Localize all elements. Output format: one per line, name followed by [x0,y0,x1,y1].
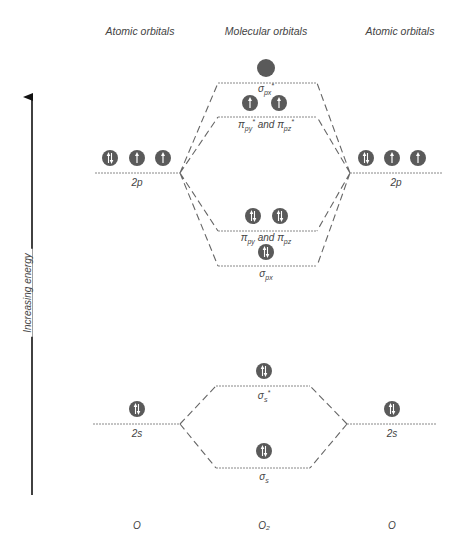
header-atomic-left: Atomic orbitals [106,25,175,37]
electron-sigma-s [256,443,272,459]
electron-sigma-px [258,244,274,260]
electron-right-2p-3 [410,150,426,166]
label-sigma-s: σs [259,471,269,484]
label-left-2s: 2s [132,428,143,439]
atom-molecule: O₂ [258,520,270,531]
electron-pi-star-1 [242,95,258,111]
mo-diagram [0,0,461,554]
electron-sigma-px-star-empty [257,59,275,77]
electron-pi-1 [245,208,261,224]
energy-axis-label: Increasing energy [22,249,33,337]
electron-left-2s [129,401,145,417]
electron-left-2p-3 [155,150,171,166]
electron-pi-star-2 [271,95,287,111]
atom-left: O [133,520,141,531]
label-sigma-s-star: σs* [258,389,270,403]
label-right-2s: 2s [387,428,398,439]
electron-left-2p-1 [102,150,118,166]
label-pi: πpy and πpz [241,232,291,245]
atom-right: O [388,520,396,531]
electron-right-2p-1 [358,150,374,166]
electron-pi-2 [272,208,288,224]
electron-sigma-s-star [256,363,272,379]
label-right-2p: 2p [390,177,401,188]
label-sigma-px-star: σpx* [258,82,274,96]
electron-left-2p-2 [129,150,145,166]
label-sigma-px: σpx [259,268,272,281]
electron-right-2p-2 [384,150,400,166]
label-left-2p: 2p [131,177,142,188]
electron-right-2s [384,401,400,417]
label-pi-star: πpy* and πpz* [238,118,294,132]
header-atomic-right: Atomic orbitals [366,25,435,37]
header-molecular: Molecular orbitals [225,25,307,37]
